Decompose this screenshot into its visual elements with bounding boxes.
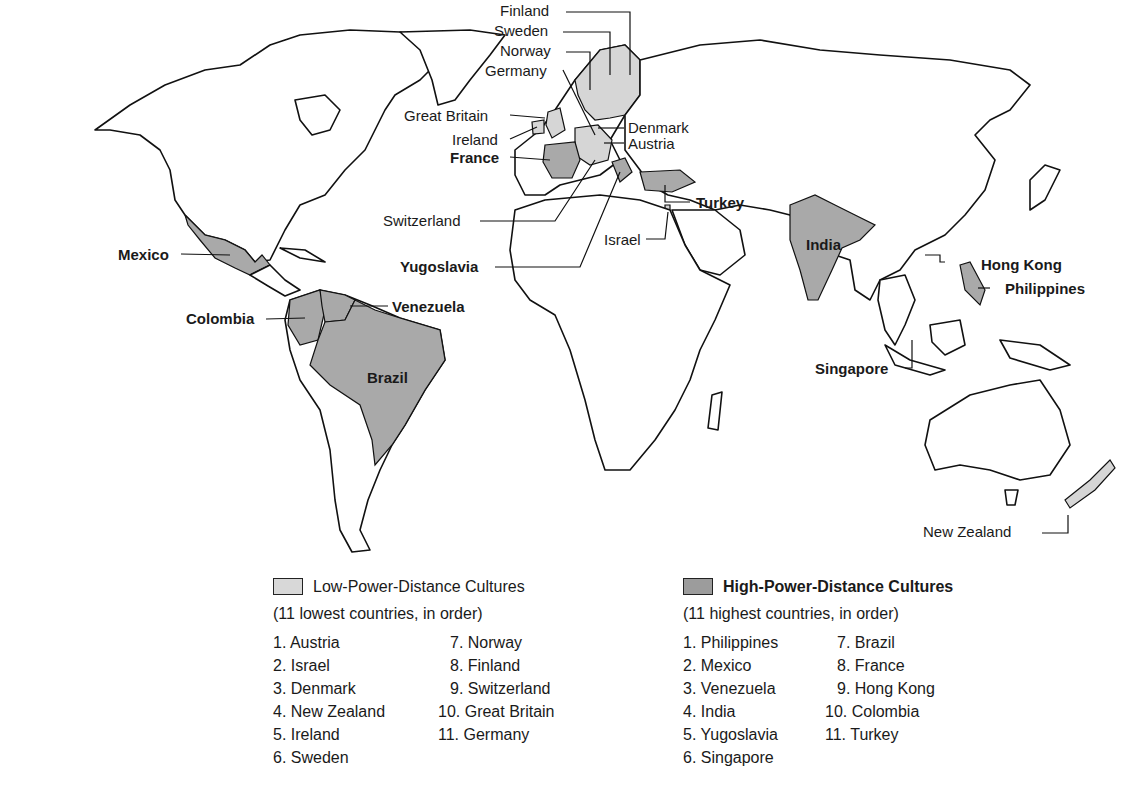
indonesia: [885, 345, 945, 375]
label-sweden: Sweden: [494, 22, 548, 39]
legend-high-item: 10. Colombia: [825, 700, 935, 723]
legend-low-item: 9. Switzerland: [438, 677, 555, 700]
legend-low-power-distance: Low-Power-Distance Cultures (11 lowest c…: [273, 575, 555, 769]
label-norway: Norway: [500, 42, 551, 59]
world-map: [0, 0, 1135, 570]
legend-high-subtitle: (11 highest countries, in order): [683, 602, 953, 625]
australia: [925, 380, 1070, 480]
legend-high-item: 4. India: [683, 700, 825, 723]
legend-high-item: 9. Hong Kong: [825, 677, 935, 700]
country-new-zealand: [1065, 460, 1115, 508]
country-ireland: [532, 120, 544, 134]
label-turkey: Turkey: [696, 194, 744, 211]
legend-low-item: 4. New Zealand: [273, 700, 438, 723]
label-finland: Finland: [500, 2, 549, 19]
legend-low-item: 5. Ireland: [273, 723, 438, 746]
label-singapore: Singapore: [815, 360, 888, 377]
label-switzerland: Switzerland: [383, 212, 461, 229]
legend-high-item: 1. Philippines: [683, 631, 825, 654]
label-mexico: Mexico: [118, 246, 169, 263]
japan: [1030, 165, 1060, 210]
legend-low-item: 11. Germany: [438, 723, 555, 746]
legend-low-item: 7. Norway: [438, 631, 555, 654]
label-austria: Austria: [628, 135, 675, 152]
legend-low-item: 8. Finland: [438, 654, 555, 677]
legend-low-subtitle: (11 lowest countries, in order): [273, 602, 555, 625]
legend-low-item: 3. Denmark: [273, 677, 438, 700]
legend-high-item: 6. Singapore: [683, 746, 825, 769]
country-yugoslavia: [612, 158, 632, 182]
tasmania: [1005, 490, 1018, 505]
borneo: [930, 320, 965, 355]
legend-low-title: Low-Power-Distance Cultures: [313, 575, 525, 598]
legend-high-power-distance: High-Power-Distance Cultures (11 highest…: [683, 575, 953, 769]
new-guinea: [1000, 340, 1070, 370]
label-india: India: [806, 236, 841, 253]
label-denmark: Denmark: [628, 119, 689, 136]
legend-high-item: 5. Yugoslavia: [683, 723, 825, 746]
madagascar: [708, 392, 722, 430]
label-venezuela: Venezuela: [392, 298, 465, 315]
swatch-high-icon: [683, 578, 713, 595]
southeast-asia: [878, 275, 915, 345]
legend-low-item: 1. Austria: [273, 631, 438, 654]
label-germany: Germany: [485, 62, 547, 79]
legend-high-item: 2. Mexico: [683, 654, 825, 677]
legend-low-item: 6. Sweden: [273, 746, 438, 769]
cuba: [280, 248, 325, 262]
label-yugoslavia: Yugoslavia: [400, 258, 478, 275]
label-brazil: Brazil: [367, 369, 408, 386]
label-colombia: Colombia: [186, 310, 254, 327]
legend-high-title: High-Power-Distance Cultures: [723, 575, 953, 598]
label-great-britain: Great Britain: [404, 107, 488, 124]
legend-high-item: 7. Brazil: [825, 631, 935, 654]
label-philippines: Philippines: [1005, 280, 1085, 297]
legend-high-item: 11. Turkey: [825, 723, 935, 746]
swatch-low-icon: [273, 578, 303, 595]
label-israel: Israel: [604, 231, 641, 248]
label-new-zealand: New Zealand: [923, 523, 1011, 540]
legend-low-item: 10. Great Britain: [438, 700, 555, 723]
legend-high-item: 3. Venezuela: [683, 677, 825, 700]
legend-high-item: 8. France: [825, 654, 935, 677]
label-france: France: [450, 149, 499, 166]
label-ireland: Ireland: [452, 131, 498, 148]
label-hong-kong: Hong Kong: [981, 256, 1062, 273]
legend-low-item: 2. Israel: [273, 654, 438, 677]
